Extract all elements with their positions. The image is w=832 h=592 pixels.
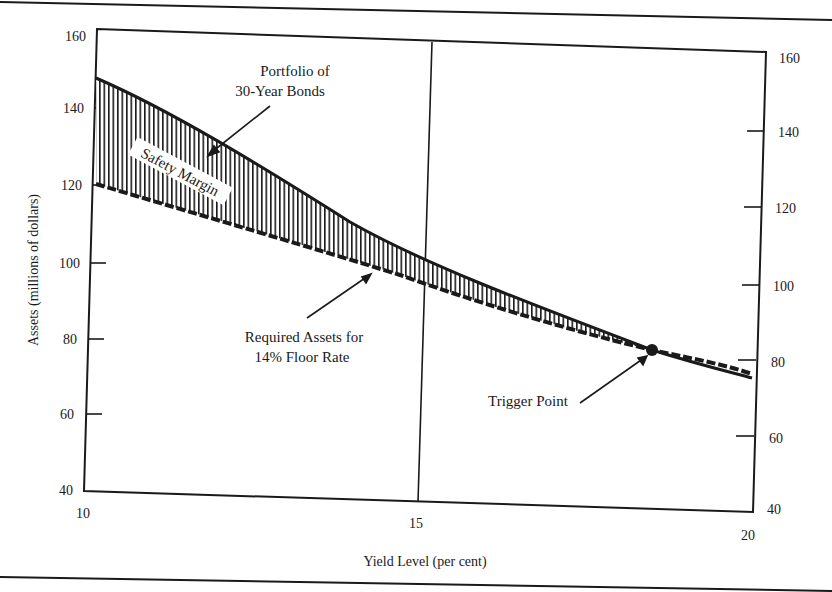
- svg-text:80: 80: [63, 332, 77, 347]
- left-y-tick-labels: 160 140 120 100 80 60 40: [59, 29, 86, 498]
- svg-text:60: 60: [769, 431, 783, 446]
- trigger-point-label: Trigger Point: [488, 393, 569, 409]
- svg-text:10: 10: [76, 506, 90, 521]
- trigger-point-marker: [646, 344, 658, 356]
- svg-text:60: 60: [60, 407, 74, 422]
- y-axis-title: Assets (millions of dollars): [26, 194, 42, 346]
- svg-text:100: 100: [773, 279, 794, 294]
- svg-text:120: 120: [61, 178, 82, 193]
- svg-text:140: 140: [63, 101, 84, 116]
- svg-text:15: 15: [409, 516, 423, 531]
- svg-text:140: 140: [778, 125, 799, 140]
- right-y-tick-labels: 160 140 120 100 80 60 40: [767, 51, 800, 517]
- svg-text:160: 160: [65, 29, 86, 44]
- svg-text:40: 40: [767, 502, 781, 517]
- svg-text:160: 160: [779, 51, 800, 66]
- x-axis-title: Yield Level (per cent): [363, 554, 487, 570]
- portfolio-line: [96, 78, 752, 378]
- required-label-line1: Required Assets for: [245, 329, 363, 345]
- svg-text:100: 100: [59, 256, 80, 271]
- svg-text:120: 120: [775, 201, 796, 216]
- page-rule-bottom: [0, 577, 832, 591]
- x-tick-labels: 10 15 20: [76, 506, 755, 543]
- chart-figure: Safety Margin Portfolio of 30-Year Bonds…: [0, 0, 832, 592]
- portfolio-label-line2: 30-Year Bonds: [235, 83, 325, 99]
- required-label-line2: 14% Floor Rate: [255, 349, 350, 365]
- svg-text:80: 80: [771, 355, 785, 370]
- page-rule-top: [0, 2, 832, 20]
- portfolio-label-line1: Portfolio of: [260, 63, 330, 79]
- svg-text:40: 40: [59, 483, 73, 498]
- svg-text:20: 20: [741, 528, 755, 543]
